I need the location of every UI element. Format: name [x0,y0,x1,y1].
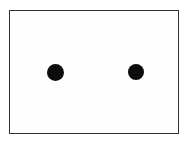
right-dot [128,64,144,80]
left-dot [47,64,64,81]
rectangle-frame [9,10,179,134]
